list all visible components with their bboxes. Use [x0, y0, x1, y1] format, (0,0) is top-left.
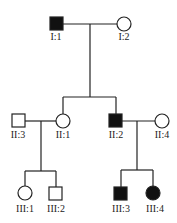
label-ii1: II:1 — [56, 129, 70, 140]
label-i2: I:2 — [118, 31, 129, 42]
individual-iii2-male — [49, 187, 62, 200]
label-iii2: III:2 — [47, 203, 65, 214]
individual-ii1-female — [56, 114, 70, 128]
individual-i1-affected-male — [50, 17, 63, 30]
individual-ii4-female — [155, 114, 169, 128]
pedigree-chart: I:1 I:2 II:3 II:1 II:2 II:4 III:1 III:2 … — [0, 0, 177, 223]
label-ii3: II:3 — [11, 129, 25, 140]
individual-ii3-male — [12, 114, 25, 127]
label-ii4: II:4 — [155, 129, 169, 140]
label-iii1: III:1 — [16, 203, 34, 214]
label-iii4: III:4 — [146, 203, 164, 214]
label-i1: I:1 — [50, 31, 61, 42]
individual-i2-female — [117, 17, 131, 31]
individual-ii2-affected-male — [109, 114, 122, 127]
label-iii3: III:3 — [112, 203, 130, 214]
label-ii2: II:2 — [109, 129, 123, 140]
individual-iii3-affected-male — [114, 187, 127, 200]
individual-iii1-female — [18, 186, 32, 200]
individual-iii4-affected-female — [146, 186, 160, 200]
